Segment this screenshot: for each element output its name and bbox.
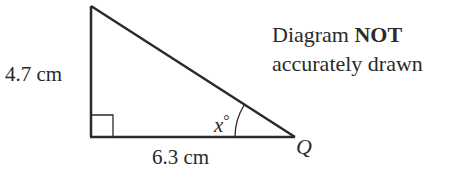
- note-line-2: accurately drawn: [272, 49, 423, 78]
- right-angle-marker: [91, 115, 113, 137]
- note-line-1: Diagram NOT: [272, 20, 423, 49]
- angle-arc: [235, 105, 245, 138]
- triangle-diagram: 4.7 cm 6.3 cm x° Q Diagram NOT accuratel…: [0, 0, 465, 181]
- angle-label: x°: [214, 113, 230, 136]
- degree-symbol: °: [223, 112, 229, 129]
- angle-symbol: x: [214, 113, 223, 137]
- note-emphasis: NOT: [354, 22, 402, 47]
- vertex-q-label: Q: [296, 136, 312, 158]
- note-prefix: Diagram: [272, 22, 349, 47]
- vertical-side-label: 4.7 cm: [5, 64, 62, 85]
- base-side-label: 6.3 cm: [152, 147, 209, 168]
- not-accurate-note: Diagram NOT accurately drawn: [272, 20, 423, 78]
- hypotenuse: [91, 6, 295, 137]
